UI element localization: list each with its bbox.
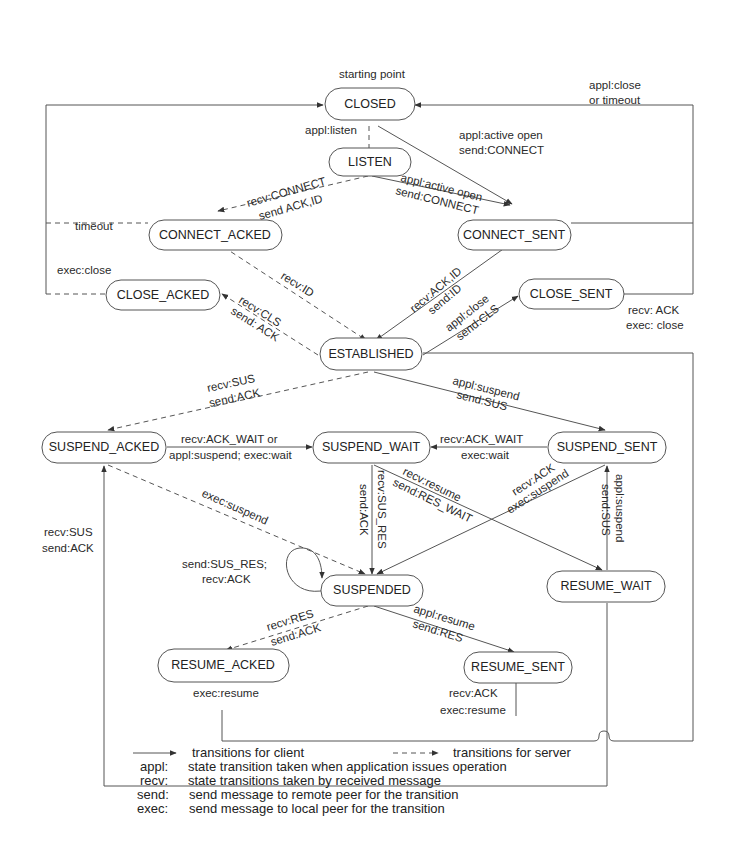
svg-text:CONNECT_ACKED: CONNECT_ACKED [159,228,271,242]
legend-key-appl: appl: [140,759,168,774]
label-resume-wait-appl-suspend: appl:suspend [614,474,626,542]
label-close-timeout-1: appl:close [589,79,641,91]
state-resume-sent: RESUME_SENT [464,652,572,683]
svg-text:RESUME_ACKED: RESUME_ACKED [171,658,275,672]
label-loop-send-ack: send:ACK [42,542,94,554]
svg-text:CLOSED: CLOSED [344,97,395,111]
legend-key-send: send: [137,787,169,802]
label-resume-sent-recv-ack: recv:ACK [449,687,498,699]
edge-sent-suspended [377,465,605,574]
label-resume-sent-exec-resume: exec:resume [440,704,506,716]
state-connect-acked: CONNECT_ACKED [149,220,282,250]
label-appl-listen: appl:listen [305,124,357,136]
label-close-timeout-2: or timeout [589,94,641,106]
state-close-sent: CLOSE_SENT [519,279,624,309]
legend-key-exec: exec: [137,801,168,816]
label-resume-wait-send-sus: send:SUS [600,484,612,536]
label-self-send-sus-res: send:SUS_RES; [182,558,267,570]
state-resume-wait: RESUME_WAIT [547,571,665,602]
label-recv-ack-wait: recv:ACK_WAIT [440,433,523,445]
legend-desc-send: send message to remote peer for the tran… [189,787,459,802]
svg-text:SUSPENDED: SUSPENDED [333,583,411,597]
legend-desc-appl: state transition taken when application … [188,759,507,774]
label-exec-close: exec:close [57,264,111,276]
label-exec-suspend: exec:suspend [200,487,270,527]
state-close-acked: CLOSE_ACKED [106,280,220,310]
state-suspend-sent: SUSPEND_SENT [548,432,666,463]
state-closed: CLOSED [325,88,415,120]
label-timeout: timeout [75,220,114,232]
state-suspended: SUSPENDED [321,575,423,606]
state-suspend-wait: SUSPEND_WAIT [313,432,430,463]
svg-text:CLOSE_ACKED: CLOSE_ACKED [117,288,209,302]
svg-text:RESUME_SENT: RESUME_SENT [471,660,565,674]
edge-suspended-self-loop [286,548,326,591]
edge-connect-acked-established [216,242,366,340]
label-exec-wait: exec:wait [461,449,510,461]
state-diagram: CLOSED LISTEN CONNECT_ACKED CONNECT_SENT… [0,0,729,849]
label-starting-point: starting point [339,68,406,80]
state-resume-acked: RESUME_ACKED [158,649,289,682]
svg-text:SUSPEND_SENT: SUSPEND_SENT [557,440,658,454]
state-connect-sent: CONNECT_SENT [458,220,571,250]
svg-text:SUSPEND_WAIT: SUSPEND_WAIT [322,440,421,454]
svg-text:CONNECT_SENT: CONNECT_SENT [463,228,565,242]
svg-text:LISTEN: LISTEN [348,155,392,169]
legend-key-recv: recv: [140,773,168,788]
label-self-recv-ack: recv:ACK [202,573,251,585]
state-established: ESTABLISHED [320,338,422,370]
label-resume-acked-exec: exec:resume [193,687,259,699]
label-send-ack-wait: send:ACK [358,484,370,536]
legend: transitions for client transitions for s… [133,745,571,816]
legend-desc-recv: state transitions taken by received mess… [188,773,441,788]
svg-text:CLOSE_SENT: CLOSE_SENT [530,287,613,301]
label-loop-recv-sus: recv:SUS [44,526,93,538]
label-recv-sus-res: recv:SUS_RES [376,470,388,549]
label-recv-id: recv:ID [279,270,316,299]
legend-desc-exec: send message to local peer for the trans… [189,801,445,816]
svg-text:ESTABLISHED: ESTABLISHED [328,347,413,361]
label-active-open-1: appl:active open [459,129,543,141]
label-appl-suspend-exec-wait: appl:suspend; exec:wait [169,449,293,461]
label-close-sent-exec-close: exec: close [626,319,684,331]
label-recv-ack-wait-or: recv:ACK_WAIT or [181,433,278,445]
edge-resume-wait-suspend-acked [104,466,607,786]
legend-client: transitions for client [192,745,304,760]
legend-server: transitions for server [453,745,571,760]
svg-text:SUSPEND_ACKED: SUSPEND_ACKED [49,440,159,454]
svg-text:RESUME_WAIT: RESUME_WAIT [560,579,652,593]
label-close-sent-recv-ack: recv: ACK [628,304,679,316]
state-listen: LISTEN [329,148,411,176]
state-suspend-acked: SUSPEND_ACKED [42,432,166,463]
label-active-open-2: send:CONNECT [459,144,544,156]
edge-established-bottom [222,710,614,741]
